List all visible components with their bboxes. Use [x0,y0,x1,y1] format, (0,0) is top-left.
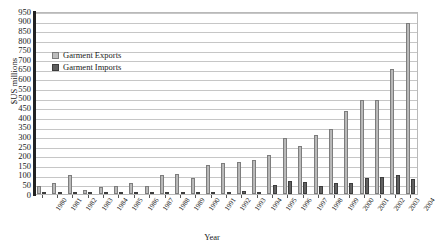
x-tick-label: 2003 [408,197,422,212]
y-tick-label: 250 [1,143,31,152]
bar-slot [310,13,325,194]
x-tick-label: 1986 [147,197,161,212]
bar-imports [73,192,77,194]
y-tick-label: 450 [1,104,31,113]
bar-slot [172,13,187,194]
bar-exports [298,146,302,194]
bar-slot [357,13,372,194]
x-tick-label: 1985 [131,197,145,212]
bar-imports [349,183,353,194]
x-tick-label: 1987 [162,197,176,212]
bar-imports [411,179,415,194]
y-tick-label: 900 [1,17,31,26]
bar-slot [249,13,264,194]
bar-exports [52,183,56,194]
bar-imports [58,192,62,194]
bar-imports [242,191,246,194]
bar-slot [188,13,203,194]
bar-exports [237,162,241,194]
bar-slot [157,13,172,194]
y-axis-tick-labels: 0501001502002503003504004505005506006507… [0,12,31,195]
x-tick-label: 1992 [239,197,253,212]
bar-exports [160,175,164,194]
y-tick-label: 150 [1,162,31,171]
bar-imports [257,192,261,194]
bar-slot [111,13,126,194]
bar-exports [68,175,72,194]
x-tick-label: 1999 [346,197,360,212]
bar-slot [142,13,157,194]
bar-slot [403,13,418,194]
bar-imports [365,178,369,194]
bar-imports [88,192,92,194]
bar-slot [326,13,341,194]
bar-slot [234,13,249,194]
legend-item-imports: Garment Imports [52,62,121,74]
x-tick-label: 1981 [70,197,84,212]
bar-slot [387,13,402,194]
bar-imports [273,185,277,194]
bar-imports [396,175,400,194]
y-tick-label: 550 [1,85,31,94]
y-tick-label: 600 [1,75,31,84]
y-axis-spine [33,11,36,196]
bar-imports [227,192,231,194]
x-tick-label: 1982 [85,197,99,212]
bar-slot [341,13,356,194]
x-tick-label: 1990 [208,197,222,212]
x-axis-title: Year [0,232,424,242]
bar-exports [206,165,210,194]
bar-slot [280,13,295,194]
y-tick-label: 750 [1,46,31,55]
legend-label-exports: Garment Exports [63,50,121,62]
bar-slot [34,13,49,194]
bar-imports [119,192,123,194]
bar-exports [344,111,348,194]
x-tick-label: 1995 [285,197,299,212]
bar-slot [203,13,218,194]
y-tick-label: 0 [1,191,31,200]
x-tick-label: 1988 [178,197,192,212]
x-tick-label: 1993 [254,197,268,212]
y-tick-label: 100 [1,171,31,180]
bar-exports [83,190,87,194]
bar-slot [295,13,310,194]
x-tick-label: 1983 [101,197,115,212]
bar-exports [267,155,271,194]
bar-exports [283,138,287,194]
bar-exports [175,174,179,194]
bar-slot [126,13,141,194]
bar-exports [129,183,133,194]
bar-exports [145,186,149,194]
y-tick-label: 350 [1,123,31,132]
x-tick-label: 1998 [331,197,345,212]
legend-label-imports: Garment Imports [63,62,121,74]
bar-slot [49,13,64,194]
bar-imports [303,182,307,194]
y-tick-label: 300 [1,133,31,142]
bar-slot [65,13,80,194]
bar-imports [165,192,169,194]
chart-legend: Garment Exports Garment Imports [52,50,121,73]
y-tick-label: 400 [1,114,31,123]
x-axis-tick-labels: 1980198119821983198419851986198719881989… [34,197,418,231]
x-tick-label: 1996 [300,197,314,212]
bar-imports [181,192,185,194]
imports-swatch-icon [52,64,59,71]
bar-exports [191,178,195,194]
x-tick-label: 2001 [377,197,391,212]
bar-exports [329,129,333,194]
exports-swatch-icon [52,52,59,59]
bar-exports [114,186,118,194]
bar-exports [252,160,256,194]
bar-imports [134,192,138,194]
bar-exports [360,100,364,194]
bar-imports [104,192,108,194]
bar-slot [95,13,110,194]
bar-imports [288,181,292,194]
bar-imports [334,183,338,194]
plot-area [34,12,418,195]
y-tick-label: 800 [1,37,31,46]
bar-slot [218,13,233,194]
